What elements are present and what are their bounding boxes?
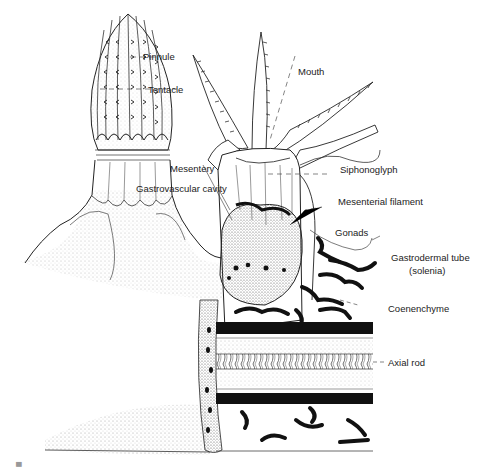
anatomy-illustration: ▀ (0, 0, 480, 471)
label-mouth: Mouth (298, 66, 324, 77)
label-gastrodermal-tube: Gastrodermal tube (391, 252, 470, 263)
label-gonads: Gonads (335, 227, 368, 238)
retracted-polyp (20, 14, 240, 300)
label-gastrovascular-cavity: Gastrovascular cavity (136, 183, 227, 194)
label-solenia: (solenia) (409, 265, 445, 276)
label-mesenterial-filament: Mesenterial filament (338, 196, 423, 207)
label-siphonoglyph: Siphonoglyph (340, 164, 398, 175)
label-coenenchyme: Coenenchyme (388, 303, 449, 314)
label-mesentery: Mesentery (170, 163, 214, 174)
caption-fragment: ▀ (16, 461, 22, 471)
label-axial-rod: Axial rod (388, 357, 425, 368)
label-pinnule: Pinnule (143, 51, 175, 62)
label-tentacle: Tentacle (148, 84, 183, 95)
